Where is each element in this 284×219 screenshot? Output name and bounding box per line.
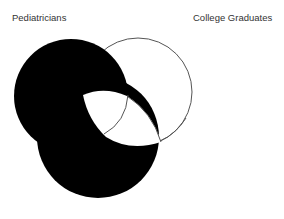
venn-diagram: [0, 0, 284, 219]
